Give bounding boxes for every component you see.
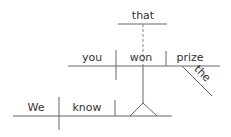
word-that: that (132, 9, 155, 22)
word-won: won (130, 51, 153, 64)
stand (130, 103, 157, 116)
word-know: know (72, 101, 101, 114)
word-you: you (82, 51, 102, 64)
word-prize: prize (176, 51, 203, 64)
sentence-diagram: that you won prize the We know (0, 0, 231, 137)
word-we: We (28, 101, 45, 114)
